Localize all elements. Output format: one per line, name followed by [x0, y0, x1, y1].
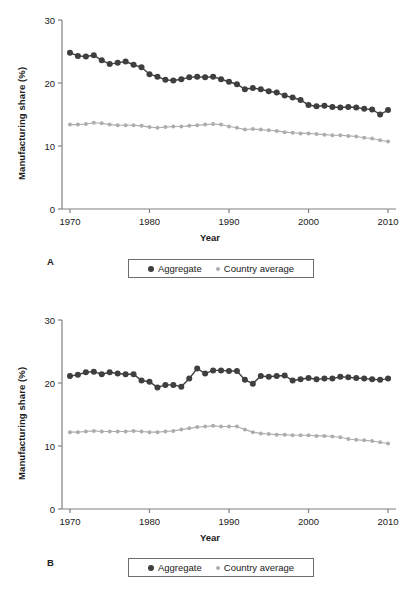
legend-label-country-average-b: Country average	[224, 562, 294, 573]
legend-item-aggregate-a: Aggregate	[148, 263, 202, 274]
svg-text:10: 10	[44, 441, 55, 452]
legend-label-country-average-a: Country average	[224, 263, 294, 274]
legend-a: Aggregate Country average	[128, 259, 314, 278]
svg-text:0: 0	[50, 504, 55, 515]
svg-text:1990: 1990	[218, 216, 239, 227]
panel-letter-a: A	[47, 256, 54, 267]
legend-label-aggregate-a: Aggregate	[158, 263, 202, 274]
svg-text:10: 10	[44, 141, 55, 152]
legend-marker-aggregate-icon	[148, 565, 154, 571]
chart-svg-b: 010203019701980199020002010	[0, 300, 407, 550]
panel-a: Manufacturing share (%) 0102030197019801…	[0, 0, 407, 300]
x-axis-label-a: Year	[180, 232, 240, 243]
svg-text:30: 30	[44, 315, 55, 326]
chart-area-b: 010203019701980199020002010	[0, 300, 407, 550]
svg-text:20: 20	[44, 78, 55, 89]
svg-text:2000: 2000	[298, 516, 319, 527]
svg-text:1980: 1980	[139, 516, 160, 527]
svg-text:1970: 1970	[59, 216, 80, 227]
svg-text:20: 20	[44, 378, 55, 389]
legend-item-country-average-b: Country average	[216, 562, 294, 573]
legend-b: Aggregate Country average	[128, 558, 314, 577]
svg-text:0: 0	[50, 204, 55, 215]
legend-item-aggregate-b: Aggregate	[148, 562, 202, 573]
legend-label-aggregate-b: Aggregate	[158, 562, 202, 573]
chart-area-a: 010203019701980199020002010	[0, 0, 407, 250]
svg-text:2010: 2010	[377, 216, 398, 227]
svg-text:1980: 1980	[139, 216, 160, 227]
legend-marker-aggregate-icon	[148, 266, 154, 272]
panel-letter-b: B	[47, 557, 54, 568]
svg-text:30: 30	[44, 15, 55, 26]
x-axis-label-b: Year	[180, 532, 240, 543]
legend-marker-country-average-icon	[216, 566, 220, 570]
chart-svg-a: 010203019701980199020002010	[0, 0, 407, 250]
svg-text:2010: 2010	[377, 516, 398, 527]
svg-text:1970: 1970	[59, 516, 80, 527]
legend-marker-country-average-icon	[216, 267, 220, 271]
panel-b: Manufacturing share (%) 0102030197019801…	[0, 300, 407, 603]
svg-text:1990: 1990	[218, 516, 239, 527]
legend-item-country-average-a: Country average	[216, 263, 294, 274]
svg-text:2000: 2000	[298, 216, 319, 227]
